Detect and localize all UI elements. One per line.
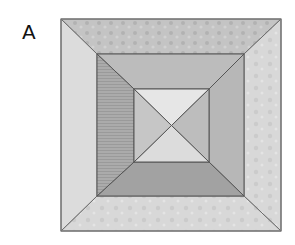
outer-bottom-piece bbox=[61, 196, 281, 231]
outer-left-piece bbox=[61, 19, 97, 231]
inner-square bbox=[134, 89, 209, 162]
quilt-block-diagram bbox=[0, 0, 295, 245]
outer-top-piece bbox=[61, 19, 281, 54]
outer-right-piece bbox=[244, 19, 281, 231]
